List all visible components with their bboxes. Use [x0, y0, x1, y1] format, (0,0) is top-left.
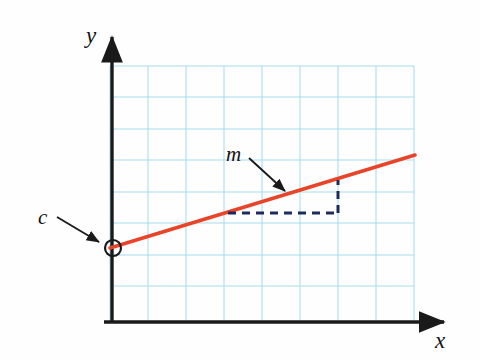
x-axis-label: x [435, 329, 445, 352]
line-graph-svg [0, 0, 480, 360]
figure-root: y x m c [0, 0, 480, 360]
y-axis-label: y [86, 24, 96, 47]
gradient-label: m [226, 144, 241, 165]
gradient-arrow-icon [249, 158, 285, 191]
grid-vertical-lines [110, 66, 414, 320]
axes [104, 37, 444, 322]
intercept-label: c [38, 207, 47, 228]
intercept-arrow-icon [57, 217, 99, 242]
grid-lines [110, 66, 414, 320]
